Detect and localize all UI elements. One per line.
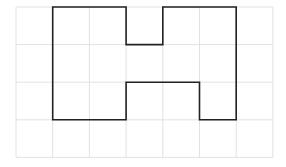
grid-diagram — [0, 0, 286, 167]
h-shaped-polygon — [53, 7, 237, 120]
